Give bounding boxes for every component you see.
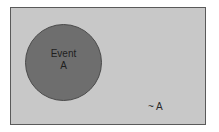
event-label-line2: A	[25, 60, 102, 72]
complement-label: ~ A	[148, 101, 163, 112]
event-a-label: Event A	[25, 48, 102, 72]
event-label-line1: Event	[25, 48, 102, 60]
